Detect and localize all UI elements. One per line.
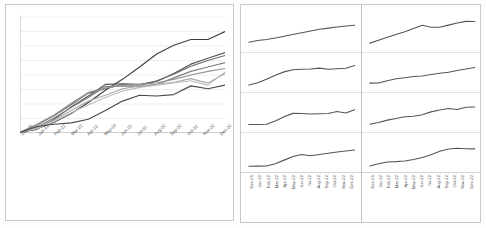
- small-multiple-panel-3-1: [362, 133, 481, 173]
- small-multiples-grid: Dec-21Jan-22Feb-22Mar-22Apr-22May-22Jun-…: [240, 4, 481, 223]
- small-multiple-x-tick: Dec-22: [470, 175, 475, 189]
- main-chart-x-axis: Dec-21Jan-22Feb-22Mar-22Apr-22May-22Jun-…: [20, 133, 225, 167]
- small-multiple-svg-3-1: [368, 135, 477, 171]
- small-multiple-x-tick: Sep-22: [445, 175, 450, 189]
- small-multiple-x-tick: Feb-22: [267, 175, 272, 188]
- small-multiples-column-0: Dec-21Jan-22Feb-22Mar-22Apr-22May-22Jun-…: [241, 5, 361, 222]
- small-multiple-panel-2-0: [241, 93, 361, 133]
- small-multiple-x-tick: Jun-22: [420, 175, 425, 188]
- small-multiple-svg-2-1: [368, 95, 477, 131]
- small-multiple-panel-1-0: [241, 53, 361, 93]
- small-multiple-x-tick: Aug-22: [437, 175, 442, 189]
- small-multiple-panel-3-0: [241, 133, 361, 173]
- small-multiples-column-1: Dec-21Jan-22Feb-22Mar-22Apr-22May-22Jun-…: [361, 5, 481, 222]
- small-multiple-x-tick: Dec-21: [371, 175, 376, 189]
- small-multiple-plot-2-1: [368, 95, 477, 131]
- small-multiple-plot-3-0: [247, 135, 357, 171]
- small-multiple-svg-1-0: [247, 55, 357, 91]
- small-multiple-x-tick: Jul-22: [308, 175, 313, 186]
- main-chart-panel: Dec-21Jan-22Feb-22Mar-22Apr-22May-22Jun-…: [5, 4, 234, 221]
- small-multiple-x-tick: May-22: [412, 175, 417, 189]
- main-chart-plot-area: [20, 15, 225, 133]
- small-multiple-plot-1-1: [368, 55, 477, 91]
- small-multiple-panel-0-1: [362, 13, 481, 53]
- small-multiple-panel-1-1: [362, 53, 481, 93]
- small-multiple-x-tick: Oct-22: [333, 175, 338, 188]
- main-chart-svg: [20, 15, 225, 133]
- small-multiple-x-tick: Apr-22: [404, 175, 409, 188]
- small-multiples-x-axis-column-0: Dec-21Jan-22Feb-22Mar-22Apr-22May-22Jun-…: [247, 175, 357, 219]
- small-multiple-x-tick: Jul-22: [428, 175, 433, 186]
- chart-page: Dec-21Jan-22Feb-22Mar-22Apr-22May-22Jun-…: [0, 0, 486, 228]
- small-multiple-plot-0-0: [247, 15, 357, 51]
- small-multiple-x-tick: Nov-22: [342, 175, 347, 189]
- small-multiple-plot-2-0: [247, 95, 357, 131]
- small-multiple-x-tick: Dec-22: [350, 175, 355, 189]
- small-multiple-x-tick: Feb-22: [387, 175, 392, 188]
- small-multiple-x-tick: May-22: [292, 175, 297, 189]
- small-multiple-panel-2-1: [362, 93, 481, 133]
- small-multiple-x-tick: Mar-22: [395, 175, 400, 188]
- small-multiple-x-tick: Aug-22: [317, 175, 322, 189]
- small-multiple-svg-2-0: [247, 95, 357, 131]
- small-multiple-x-tick: Sep-22: [325, 175, 330, 189]
- small-multiple-x-tick: Dec-21: [250, 175, 255, 189]
- small-multiple-svg-0-1: [368, 15, 477, 51]
- small-multiple-x-tick: Apr-22: [283, 175, 288, 188]
- small-multiple-svg-3-0: [247, 135, 357, 171]
- small-multiples-x-axis-column-1: Dec-21Jan-22Feb-22Mar-22Apr-22May-22Jun-…: [368, 175, 477, 219]
- small-multiple-plot-0-1: [368, 15, 477, 51]
- small-multiple-x-tick: Nov-22: [461, 175, 466, 189]
- small-multiple-svg-1-1: [368, 55, 477, 91]
- small-multiple-x-tick: Jan-22: [258, 175, 263, 188]
- small-multiple-panel-0-0: [241, 13, 361, 53]
- small-multiple-x-tick: Jun-22: [300, 175, 305, 188]
- small-multiple-x-tick: Jan-22: [379, 175, 384, 188]
- small-multiple-svg-0-0: [247, 15, 357, 51]
- small-multiple-plot-1-0: [247, 55, 357, 91]
- small-multiple-x-tick: Oct-22: [453, 175, 458, 188]
- small-multiple-plot-3-1: [368, 135, 477, 171]
- small-multiple-x-tick: Mar-22: [275, 175, 280, 188]
